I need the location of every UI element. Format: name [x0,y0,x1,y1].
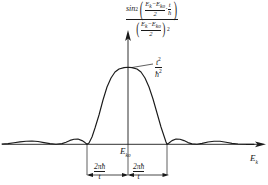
hbar-symbol: ħ [168,10,171,17]
peak-value-label: t2 ħ2 [155,57,162,78]
sin-symbol: sin [126,5,135,13]
left-interval-numerator: 2πħ [94,163,105,171]
right-interval-label: 2πħ t [133,163,144,180]
x-axis-energy-sub: k [256,159,258,165]
half-denominator: 2 [149,31,152,38]
y-axis-formula-denominator: ( Ek−Ek0 2 )2 [135,21,170,38]
left-interval-label: 2πħ t [94,163,105,180]
peak-numerator: t2 [156,57,161,67]
x-axis-label: Ek [250,154,258,165]
y-axis-formula: sin2 ( Ek−Ek0 2 · t ħ ) ( Ek−Ek0 2 )2 [126,1,178,38]
energy-difference-over-two-denominator: Ek−Ek0 2 [141,21,161,38]
energy-difference-over-two: Ek−Ek0 2 [145,1,165,18]
half-denominator: 2 [154,11,157,18]
center-energy-sub2: 0 [128,153,131,158]
t-over-hbar: t ħ [168,2,171,17]
time-t: t [169,2,171,9]
x-axis-center-label: Ek0 [120,147,130,158]
y-axis [125,30,131,144]
sin-exponent: 2 [135,7,138,13]
energy-difference: Ek−Ek0 [141,21,161,30]
peak-leader-line [132,64,153,68]
right-interval-denominator: t [138,173,140,181]
energy-difference: Ek−Ek0 [145,1,165,10]
peak-denominator: ħ2 [155,69,162,79]
right-interval-numerator: 2πħ [133,163,144,171]
y-axis-formula-numerator: sin2 ( Ek−Ek0 2 · t ħ ) [126,1,178,18]
denominator-exponent: 2 [167,27,170,33]
numerator-close-paren: ) [173,2,176,16]
numerator-open-paren: ( [140,2,143,16]
left-interval-denominator: t [99,173,101,181]
denominator-close-paren: ) [163,23,166,35]
left-interval-arrow [87,173,129,177]
denominator-open-paren: ( [136,23,139,35]
